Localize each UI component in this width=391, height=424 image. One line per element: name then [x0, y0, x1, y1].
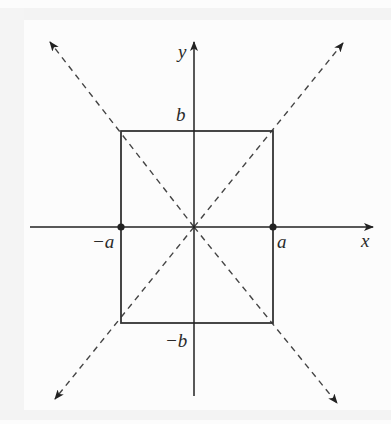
neg-b-label: −b	[165, 330, 187, 351]
coordinate-diagram: y x b −b a −a	[0, 0, 391, 424]
dashed-line-positive-slope	[55, 43, 343, 399]
neg-a-label: −a	[92, 231, 114, 252]
x-axis-label: x	[360, 230, 370, 251]
y-axis-label: y	[176, 41, 187, 62]
point-a	[269, 223, 276, 230]
point-neg-a	[117, 223, 124, 230]
b-label: b	[176, 104, 186, 125]
a-label: a	[277, 231, 287, 252]
diagram-canvas: y x b −b a −a	[0, 0, 391, 424]
